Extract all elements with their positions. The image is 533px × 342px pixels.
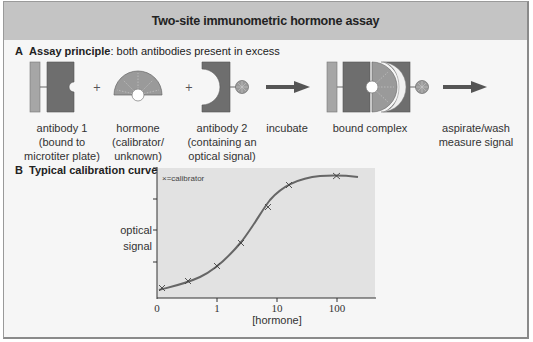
label-line: microtiter plate): [22, 149, 102, 163]
label-line: (bound to: [22, 135, 102, 149]
plot-area: [157, 168, 375, 298]
antibody-2-icon: [202, 62, 249, 112]
x-tick-label: 100: [329, 302, 346, 314]
calibration-chart: 0 1 10 100 ×=calibrator: [153, 167, 376, 314]
label-line: measure signal: [436, 135, 516, 149]
x-tick-label: 0: [154, 302, 160, 314]
label-line: antibody 1: [22, 121, 102, 135]
section-b-heading: B Typical calibration curve: [15, 164, 157, 176]
y-axis-label-line-1: optical: [108, 222, 152, 238]
label-line: (containing an: [180, 135, 264, 149]
y-axis-label: optical signal: [108, 222, 152, 254]
antibody-1-icon: [30, 62, 74, 112]
label-line: hormone: [103, 121, 173, 135]
aspirate-wash-label: aspirate/wash measure signal: [436, 121, 516, 149]
label-line: optical signal): [180, 149, 264, 163]
label-line: (calibrator/: [103, 135, 173, 149]
incubate-label: incubate: [262, 121, 312, 135]
arrow-right-icon: [266, 81, 310, 93]
plus-sign-2: +: [185, 81, 193, 94]
arrow-right-icon: [443, 81, 487, 93]
chart-legend: ×=calibrator: [162, 174, 205, 183]
label-line: aspirate/wash: [436, 121, 516, 135]
x-axis-label: [hormone]: [237, 314, 317, 326]
section-b-letter: B: [15, 164, 23, 176]
plus-sign-1: +: [93, 81, 101, 94]
x-tick-label: 1: [214, 302, 220, 314]
label-line: bound complex: [330, 121, 410, 135]
label-line: antibody 2: [180, 121, 264, 135]
antibody-2-label: antibody 2 (containing an optical signal…: [180, 121, 264, 163]
label-line: incubate: [262, 121, 312, 135]
bound-complex-label: bound complex: [330, 121, 410, 135]
hormone-icon: [114, 71, 162, 101]
label-line: unknown): [103, 149, 173, 163]
x-tick-label: 10: [272, 302, 284, 314]
y-axis-label-line-2: signal: [108, 238, 152, 254]
y-ticks: [153, 168, 157, 262]
hormone-label: hormone (calibrator/ unknown): [103, 121, 173, 163]
bound-complex-icon: [327, 62, 429, 112]
antibody-1-label: antibody 1 (bound to microtiter plate): [22, 121, 102, 163]
section-b-title: Typical calibration curve: [29, 164, 157, 176]
